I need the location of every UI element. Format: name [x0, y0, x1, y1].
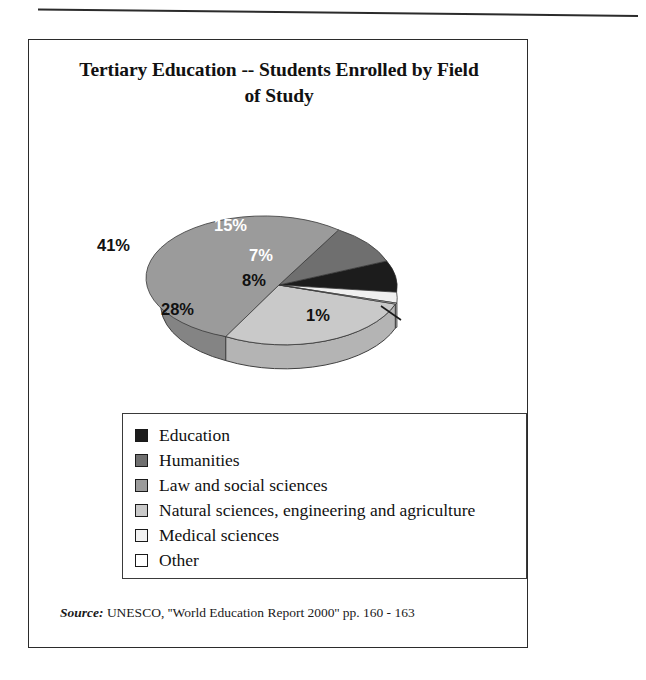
- source-label: Source:: [60, 605, 104, 620]
- legend-item-label: Humanities: [159, 452, 240, 470]
- page-scan-rule: [38, 8, 638, 18]
- pie-label-other: 1%: [306, 306, 330, 325]
- legend-item-humanities: Humanities: [135, 448, 526, 473]
- chart-legend: Education Humanities Law and social scie…: [122, 413, 527, 579]
- legend-swatch-icon: [135, 529, 148, 542]
- legend-item-label: Natural sciences, engineering and agricu…: [159, 502, 475, 520]
- source-text: UNESCO, ''World Education Report 2000'' …: [107, 605, 415, 620]
- legend-item-label: Other: [159, 552, 199, 570]
- pie-geometry: [146, 216, 401, 369]
- legend-swatch-icon: [135, 479, 148, 492]
- pie-chart-svg: [29, 140, 529, 415]
- legend-swatch-icon: [135, 504, 148, 517]
- pie-label-humanities: 15%: [214, 216, 247, 235]
- legend-item-medical-sciences: Medical sciences: [135, 523, 526, 548]
- chart-title: Tertiary Education -- Students Enrolled …: [69, 57, 489, 108]
- legend-item-other: Other: [135, 548, 526, 573]
- pie-label-education: 7%: [249, 246, 273, 265]
- legend-swatch-icon: [135, 454, 148, 467]
- source-note: Source: UNESCO, ''World Education Report…: [60, 605, 415, 621]
- legend-swatch-icon: [135, 554, 148, 567]
- legend-item-education: Education: [135, 423, 526, 448]
- legend-item-natural-sciences: Natural sciences, engineering and agricu…: [135, 498, 526, 523]
- legend-swatch-icon: [135, 429, 148, 442]
- legend-item-label: Medical sciences: [159, 527, 279, 545]
- legend-item-law-and-social-sciences: Law and social sciences: [135, 473, 526, 498]
- legend-item-label: Education: [159, 427, 230, 445]
- pie-label-law: 41%: [97, 236, 130, 255]
- pie-label-medical: 8%: [242, 271, 266, 290]
- pie-label-natural: 28%: [161, 300, 194, 319]
- legend-item-label: Law and social sciences: [159, 477, 328, 495]
- pie-chart: 41% 15% 7% 8% 28% 1%: [29, 140, 529, 415]
- figure-frame: Tertiary Education -- Students Enrolled …: [28, 39, 528, 648]
